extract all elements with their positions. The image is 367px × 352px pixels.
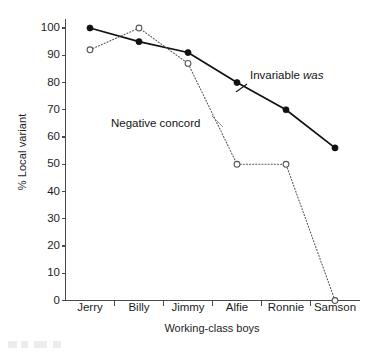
data-point-samson (332, 145, 338, 151)
data-point-jimmy (185, 49, 191, 55)
y-axis-tick-marks (62, 28, 66, 301)
annotation-leader-line (212, 116, 223, 127)
y-tick-label: 90 (30, 50, 60, 62)
x-tick-label-jerry: Jerry (77, 301, 103, 313)
y-tick-label: 40 (30, 186, 60, 198)
series-line (90, 28, 335, 148)
series-layer (87, 25, 338, 304)
data-point-jerry (87, 47, 93, 53)
y-tick-label: 30 (30, 213, 60, 225)
y-tick-label: 20 (30, 240, 60, 252)
y-axis-title: % Local variant (16, 92, 28, 212)
y-tick-label: 100 (30, 22, 60, 34)
y-tick-label: 10 (30, 268, 60, 280)
x-tick-label-samson: Samson (314, 301, 356, 313)
data-point-alfie (234, 161, 240, 167)
x-axis-tick-labels: JerryBillyJimmyAlfieRonnieSamson (0, 301, 367, 321)
data-point-jimmy (185, 61, 191, 67)
annotation-invariable-was: Invariable was (250, 69, 324, 81)
y-tick-label: 80 (30, 77, 60, 89)
y-axis-tick-labels: 1009080706050403020100 (28, 0, 60, 352)
annotation-leader-lines (212, 84, 247, 127)
data-point-alfie (234, 79, 240, 85)
chart-figure: 1009080706050403020100 JerryBillyJimmyAl… (0, 0, 367, 352)
data-point-ronnie (283, 161, 289, 167)
annotation-negative-concord: Negative concord (111, 117, 201, 129)
annotation-invariable-prefix: Invariable (250, 69, 303, 81)
x-tick-label-jimmy: Jimmy (171, 301, 204, 313)
x-tick-label-billy: Billy (128, 301, 149, 313)
annotation-invariable-italic: was (303, 69, 323, 81)
x-axis-title: Working-class boys (66, 322, 358, 334)
x-tick-label-ronnie: Ronnie (268, 301, 304, 313)
data-point-jerry (87, 25, 93, 31)
y-tick-label: 60 (30, 131, 60, 143)
scan-artifact (8, 341, 128, 348)
data-point-ronnie (283, 107, 289, 113)
axis-lines (66, 19, 360, 301)
data-point-billy (136, 39, 142, 45)
series-invariable-was (87, 25, 338, 151)
data-point-billy (136, 25, 142, 31)
x-tick-label-alfie: Alfie (226, 301, 248, 313)
y-tick-label: 70 (30, 104, 60, 116)
y-tick-label: 50 (30, 159, 60, 171)
